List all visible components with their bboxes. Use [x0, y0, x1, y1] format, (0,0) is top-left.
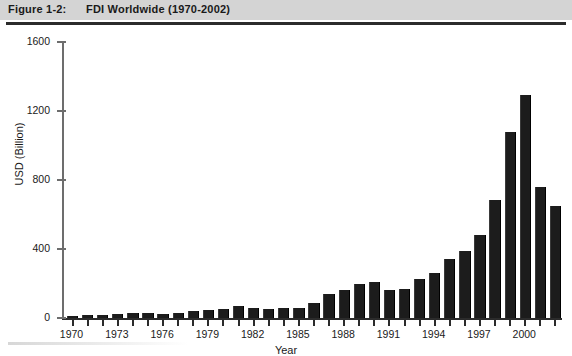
- bar-chart: USD (Billion) 040080012001600 1970197319…: [0, 28, 572, 346]
- bar: [203, 310, 214, 318]
- x-tick-mark: [147, 320, 149, 326]
- bar: [369, 282, 380, 318]
- x-tick-mark: [343, 320, 345, 326]
- x-tick-mark: [479, 320, 481, 326]
- bar: [157, 314, 168, 318]
- bar: [459, 251, 470, 318]
- bar: [248, 308, 259, 318]
- bar: [308, 303, 319, 318]
- bar: [520, 95, 531, 318]
- y-tick-label: 1600: [10, 35, 50, 47]
- x-tick-label: 1976: [142, 328, 182, 340]
- x-tick-mark: [449, 320, 451, 326]
- x-tick-mark: [87, 320, 89, 326]
- x-tick-label: 1970: [52, 328, 92, 340]
- x-tick-mark: [388, 320, 390, 326]
- x-tick-label: 2000: [504, 328, 544, 340]
- bar: [293, 308, 304, 318]
- bar: [142, 313, 153, 318]
- x-tick-mark: [268, 320, 270, 326]
- x-tick-mark: [117, 320, 119, 326]
- x-tick-mark: [509, 320, 511, 326]
- bar: [323, 294, 334, 318]
- x-tick-mark: [313, 320, 315, 326]
- x-axis-title: Year: [0, 344, 572, 356]
- bar: [444, 259, 455, 318]
- x-tick-mark: [238, 320, 240, 326]
- bar: [550, 206, 561, 318]
- x-tick-mark: [358, 320, 360, 326]
- x-tick-mark: [72, 320, 74, 326]
- y-axis-title: USD (Billion): [13, 79, 25, 229]
- y-tick-label: 0: [10, 311, 50, 323]
- bar-series: [64, 42, 562, 318]
- bar: [278, 308, 289, 318]
- bar: [82, 315, 93, 318]
- x-tick-mark: [177, 320, 179, 326]
- bar: [233, 306, 244, 318]
- y-tick-label: 800: [10, 173, 50, 185]
- y-tick-label: 1200: [10, 104, 50, 116]
- x-tick-label: 1994: [414, 328, 454, 340]
- page-artifact: [8, 342, 188, 345]
- x-tick-mark: [464, 320, 466, 326]
- bar: [535, 187, 546, 318]
- bar: [173, 313, 184, 318]
- bar: [339, 290, 350, 318]
- bar: [489, 200, 500, 318]
- bar: [188, 311, 199, 318]
- figure-label: Figure 1-2:: [8, 3, 66, 15]
- x-tick-mark: [524, 320, 526, 326]
- x-tick-mark: [554, 320, 556, 326]
- x-tick-mark: [404, 320, 406, 326]
- x-tick-mark: [328, 320, 330, 326]
- x-tick-mark: [222, 320, 224, 326]
- x-tick-mark: [132, 320, 134, 326]
- bar: [505, 132, 516, 318]
- y-tick-label: 400: [10, 242, 50, 254]
- x-axis-line: [62, 318, 562, 320]
- bar: [354, 284, 365, 319]
- x-tick-mark: [298, 320, 300, 326]
- x-tick-label: 1991: [368, 328, 408, 340]
- bar: [97, 315, 108, 318]
- x-tick-mark: [419, 320, 421, 326]
- figure-title: FDI Worldwide (1970-2002): [86, 3, 230, 15]
- bar: [263, 309, 274, 318]
- bar: [67, 316, 78, 318]
- x-tick-mark: [283, 320, 285, 326]
- bar: [218, 309, 229, 318]
- bar: [474, 235, 485, 318]
- x-tick-mark: [494, 320, 496, 326]
- x-tick-label: 1973: [97, 328, 137, 340]
- bar: [127, 313, 138, 318]
- x-tick-mark: [373, 320, 375, 326]
- x-tick-mark: [102, 320, 104, 326]
- x-tick-label: 1988: [323, 328, 363, 340]
- x-tick-label: 1985: [278, 328, 318, 340]
- x-tick-mark: [207, 320, 209, 326]
- x-tick-label: 1982: [233, 328, 273, 340]
- bar: [399, 289, 410, 318]
- bar: [429, 273, 440, 318]
- x-tick-mark: [192, 320, 194, 326]
- x-tick-mark: [539, 320, 541, 326]
- x-tick-mark: [434, 320, 436, 326]
- bar: [384, 290, 395, 318]
- header-divider-rule: [6, 22, 566, 25]
- x-tick-mark: [162, 320, 164, 326]
- x-tick-label: 1979: [187, 328, 227, 340]
- x-tick-mark: [253, 320, 255, 326]
- bar: [112, 314, 123, 318]
- x-tick-label: 1997: [459, 328, 499, 340]
- bar: [414, 279, 425, 318]
